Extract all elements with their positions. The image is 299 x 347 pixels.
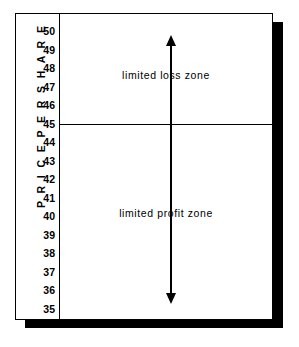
y-axis-tick-40: 40 <box>29 211 55 221</box>
y-axis-tick-36: 36 <box>29 285 55 295</box>
arrow-shaft-up <box>170 46 172 124</box>
y-axis-tick-49: 49 <box>29 45 55 55</box>
y-axis-tick-38: 38 <box>29 248 55 258</box>
y-axis-tick-50: 50 <box>29 26 55 36</box>
strike-price-divider <box>60 124 272 125</box>
price-zone-figure: P R I C E P E R S H A R E 50494847464544… <box>0 0 299 347</box>
y-axis-tick-47: 47 <box>29 82 55 92</box>
y-axis-tick-39: 39 <box>29 230 55 240</box>
y-axis-tick-35: 35 <box>29 304 55 314</box>
arrow-head-down-icon <box>166 293 176 304</box>
limited-loss-zone-label: limited loss zone <box>60 69 272 81</box>
arrow-head-up-icon <box>166 35 176 46</box>
limited-profit-zone-label: limited profit zone <box>60 207 272 219</box>
plot-area: limited loss zone limited profit zone <box>60 14 272 319</box>
y-axis-column: P R I C E P E R S H A R E 50494847464544… <box>16 14 60 319</box>
y-axis-tick-48: 48 <box>29 63 55 73</box>
chart-plot-frame: P R I C E P E R S H A R E 50494847464544… <box>15 13 273 320</box>
y-axis-tick-45: 45 <box>29 119 55 129</box>
y-axis-tick-41: 41 <box>29 193 55 203</box>
y-axis-tick-44: 44 <box>29 137 55 147</box>
y-axis-tick-37: 37 <box>29 267 55 277</box>
y-axis-tick-42: 42 <box>29 174 55 184</box>
y-axis-tick-46: 46 <box>29 100 55 110</box>
y-axis-tick-43: 43 <box>29 156 55 166</box>
